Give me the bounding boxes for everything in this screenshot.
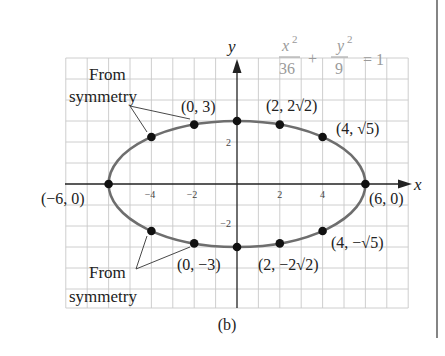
svg-text:+: + <box>308 50 317 67</box>
symmetry-leaders <box>130 106 190 269</box>
svg-text:2: 2 <box>347 33 353 45</box>
label-2-neg2r2: (2, −2√2) <box>258 256 318 274</box>
svg-text:y: y <box>335 37 345 55</box>
point-4-negr5 <box>318 227 327 236</box>
point-2-neg2r2 <box>276 239 285 248</box>
label-4-r5: (4, √5) <box>336 120 379 138</box>
x-tick-neg4: −4 <box>145 189 156 200</box>
svg-text:x: x <box>281 37 289 54</box>
svg-text:36: 36 <box>279 60 295 77</box>
x-axis-label: x <box>413 175 422 194</box>
equation: x 2 36 + y 2 9 = 1 <box>279 33 384 77</box>
svg-text:= 1: = 1 <box>363 51 384 68</box>
annotation-top-symmetry: symmetry <box>69 87 137 106</box>
label-0-3: (0, 3) <box>181 98 216 116</box>
x-axis-arrow-icon <box>398 180 412 189</box>
label-0-neg3: (0, −3) <box>177 256 221 274</box>
annotation-bottom-from: From <box>89 263 126 282</box>
label-neg6-0: (−6, 0) <box>41 190 85 208</box>
y-axis-arrow-icon <box>233 59 242 73</box>
point-2-2r2 <box>276 120 285 129</box>
x-tick-4: 4 <box>320 189 325 200</box>
point-neg4-negr5 <box>147 227 156 236</box>
svg-text:2: 2 <box>292 33 298 45</box>
annotation-bottom-symmetry: symmetry <box>69 287 137 306</box>
x-tick-neg2: −2 <box>187 189 198 200</box>
point-neg2-neg2r2 <box>190 239 199 248</box>
y-axis-label: y <box>226 37 236 56</box>
label-4-negr5: (4, −√5) <box>331 234 383 252</box>
x-tick-2: 2 <box>277 189 282 200</box>
annotation-top-from: From <box>89 65 126 84</box>
label-2-2r2: (2, 2√2) <box>266 97 317 115</box>
label-6-0: (6, 0) <box>369 190 404 208</box>
point-4-r5 <box>318 133 327 142</box>
point-neg2-2r2 <box>190 120 199 129</box>
point-neg4-r5 <box>147 133 156 142</box>
point-0-3 <box>233 117 242 126</box>
y-tick-neg2: −2 <box>220 218 231 229</box>
point-0-neg3 <box>233 243 242 252</box>
svg-text:9: 9 <box>335 60 343 77</box>
point-6-0 <box>361 180 370 189</box>
figure-caption: (b) <box>218 316 237 334</box>
y-tick-2: 2 <box>226 137 231 148</box>
point-neg6-0 <box>104 180 113 189</box>
ellipse-figure: −4 −2 2 4 2 −2 x y x 2 36 + y 2 9 = 1 (0… <box>0 0 445 356</box>
